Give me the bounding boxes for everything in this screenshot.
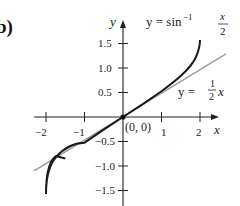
y-tick-label: −1.0 <box>95 160 115 172</box>
panel-label: b) <box>0 16 13 38</box>
svg-text:y =: y = <box>178 84 195 99</box>
svg-text:−1: −1 <box>183 12 193 22</box>
svg-text:2: 2 <box>209 91 214 102</box>
y-tick-label: −1.5 <box>95 184 115 196</box>
y-tick-label: −0.5 <box>95 135 115 147</box>
svg-text:x: x <box>217 84 224 99</box>
tangent-label: y = 1 2 x <box>178 78 224 102</box>
svg-text:x: x <box>219 10 225 22</box>
svg-text:2: 2 <box>220 25 226 37</box>
chart: b) −2 −1 1 2 x 1.5 1.0 0.5 −0.5 −1.0 −1.… <box>0 0 240 206</box>
x-axis-arrow-icon <box>211 114 219 120</box>
x-axis-label: x <box>213 122 220 137</box>
svg-text:1: 1 <box>210 78 215 89</box>
y-axis-label: y <box>108 14 116 29</box>
x-tick-label: 1 <box>161 126 167 138</box>
y-tick-label: 1.5 <box>98 37 112 49</box>
origin-label: (0, 0) <box>125 120 151 134</box>
y-tick-label: 0.5 <box>98 86 112 98</box>
x-tick-label: 2 <box>196 126 202 138</box>
svg-text:y = sin: y = sin <box>146 14 182 29</box>
figure: b) −2 −1 1 2 x 1.5 1.0 0.5 −0.5 −1.0 −1.… <box>0 0 240 206</box>
arcsin-label: y = sin −1 x 2 <box>146 10 228 37</box>
y-tick-label: 1.0 <box>98 62 112 74</box>
x-tick-label: −2 <box>35 126 47 138</box>
origin-point <box>120 114 125 119</box>
y-axis-arrow-icon <box>120 20 126 28</box>
x-tick-label: −1 <box>73 126 85 138</box>
